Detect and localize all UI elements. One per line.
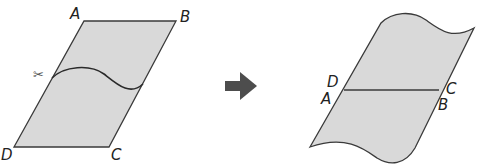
parallelogram xyxy=(14,21,176,147)
diagram-canvas: A B C D ✂ D A C B xyxy=(0,0,477,167)
label-c: C xyxy=(111,146,122,164)
label-d: D xyxy=(1,146,13,164)
label-a: A xyxy=(69,5,80,23)
right-figure: D A C B xyxy=(310,14,474,163)
left-figure: A B C D ✂ xyxy=(1,5,190,164)
label-d: D xyxy=(327,73,339,91)
arrow-right-icon xyxy=(225,72,257,100)
label-a: A xyxy=(320,90,331,108)
scissors-icon: ✂ xyxy=(33,67,44,82)
label-b: B xyxy=(438,96,448,114)
label-b: B xyxy=(180,8,190,26)
